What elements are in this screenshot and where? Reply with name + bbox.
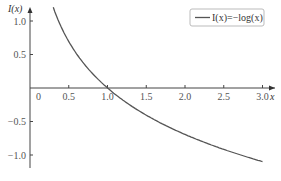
y-arrow-icon [28, 7, 33, 13]
axes: 00.51.01.52.02.53.01.00.5−0.5−1.0I(x)x [7, 3, 275, 168]
y-tick-label: −1.0 [8, 150, 26, 161]
x-axis-label: x [269, 91, 275, 102]
y-tick-label: 1.0 [14, 16, 27, 27]
x-tick-label: 0.5 [63, 91, 76, 102]
y-tick-label: 0.5 [14, 49, 27, 60]
legend: I(x)=−log(x) [190, 9, 264, 26]
legend-label: I(x)=−log(x) [212, 12, 263, 24]
series-line [53, 7, 262, 161]
x-tick-label: 1.0 [101, 91, 114, 102]
x-tick-label: 0 [36, 91, 41, 102]
plot-area [53, 7, 262, 161]
chart: 00.51.01.52.02.53.01.00.5−0.5−1.0I(x)x I… [0, 0, 281, 181]
x-tick-label: 2.5 [218, 91, 231, 102]
x-arrow-icon [269, 86, 275, 91]
x-tick-label: 2.0 [179, 91, 192, 102]
x-tick-label: 3.0 [256, 91, 269, 102]
x-tick-label: 1.5 [140, 91, 153, 102]
y-axis-label: I(x) [7, 3, 23, 15]
y-tick-label: −0.5 [8, 116, 26, 127]
